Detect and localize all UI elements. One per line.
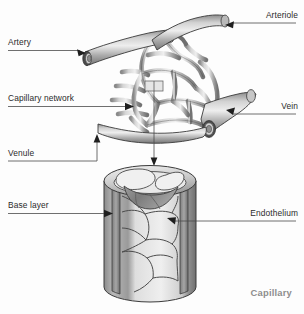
label-vein: Vein xyxy=(281,101,298,111)
vein-vessel xyxy=(201,90,256,138)
label-base-layer: Base layer xyxy=(8,200,49,210)
label-venule: Venule xyxy=(8,148,34,158)
leader-arteriole xyxy=(225,21,296,28)
leader-capillary-network xyxy=(8,103,134,110)
leader-artery xyxy=(8,49,86,56)
magnified-region-box xyxy=(145,81,163,91)
arteriole-vessel xyxy=(152,15,229,50)
capillary-cylinder-group xyxy=(104,166,196,303)
diagram-page: Artery Capillary network Venule Base lay… xyxy=(0,0,304,314)
label-artery: Artery xyxy=(8,37,31,47)
label-arteriole: Arteriole xyxy=(266,10,298,20)
caption-capillary: Capillary xyxy=(251,287,292,298)
capillary-diagram-illustration xyxy=(0,0,304,314)
label-endothelium: Endothelium xyxy=(250,208,298,218)
venule-vessel xyxy=(98,124,206,143)
label-capillary-network: Capillary network xyxy=(8,93,74,103)
leader-base-layer xyxy=(8,210,113,217)
vascular-network-group xyxy=(83,15,256,166)
